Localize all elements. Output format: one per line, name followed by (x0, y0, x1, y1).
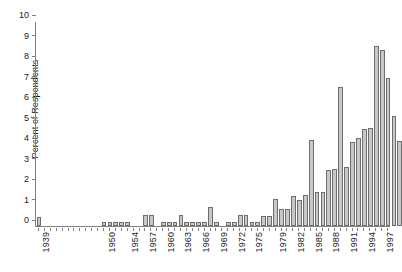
x-axis-tick-mark (68, 228, 69, 231)
x-axis-tick-mark (340, 228, 341, 231)
x-axis-tick-label: 1960 (166, 232, 176, 252)
bar (196, 222, 201, 226)
x-axis-tick-mark (144, 228, 145, 231)
y-axis-tick-label: 8 (24, 50, 29, 62)
x-axis-tick-mark (215, 228, 216, 231)
y-axis-tick-label: 3 (24, 153, 29, 165)
x-axis-tick-mark (38, 228, 39, 231)
bar (214, 222, 219, 226)
y-axis-tick: 5 (1, 112, 36, 124)
x-axis-tick-label: 1975 (254, 232, 264, 252)
x-axis-tick-mark (316, 228, 317, 231)
bar (303, 195, 308, 226)
x-axis-tick-mark (192, 228, 193, 231)
x-axis-tick-mark (298, 228, 299, 231)
x-axis-tick-mark (109, 228, 110, 231)
x-axis-tick-mark (233, 228, 234, 231)
x-axis-tick-label: 1988 (331, 232, 341, 252)
bar (321, 192, 326, 226)
bar (386, 78, 391, 226)
x-axis-tick-mark (210, 228, 211, 231)
plot-frame: 012345678910 (35, 22, 390, 227)
bar (108, 222, 113, 226)
x-axis-tick-mark (387, 228, 388, 231)
x-axis-tick-mark (292, 228, 293, 231)
y-axis-tick: 1 (1, 194, 36, 206)
x-axis-tick-label: 1997 (385, 232, 395, 252)
x-axis-tick-mark (180, 228, 181, 231)
bar (397, 141, 402, 226)
x-axis-tick-mark (50, 228, 51, 231)
x-axis-tick-mark (150, 228, 151, 231)
y-axis-tick-mark (32, 15, 36, 16)
bar (392, 116, 397, 226)
x-axis-tick-mark (85, 228, 86, 231)
bar (285, 209, 290, 226)
x-axis-tick-mark (328, 228, 329, 231)
bar (309, 140, 314, 226)
x-axis-tick-mark (251, 228, 252, 231)
x-axis-tick-mark (162, 228, 163, 231)
x-axis-tick-mark (346, 228, 347, 231)
bar (232, 222, 237, 226)
bar (344, 167, 349, 226)
bar (149, 215, 154, 226)
x-axis-tick-mark (281, 228, 282, 231)
y-axis-tick: 3 (1, 153, 36, 165)
x-axis-tick-mark (127, 228, 128, 231)
bar (37, 217, 42, 226)
y-axis-tick: 0 (1, 214, 36, 226)
x-axis-tick-mark (79, 228, 80, 231)
bar (297, 200, 302, 226)
bar (350, 142, 355, 226)
x-axis-tick-mark (221, 228, 222, 231)
x-axis-tick-mark (375, 228, 376, 231)
bar (279, 209, 284, 226)
bar (326, 170, 331, 226)
bar (184, 222, 189, 226)
x-axis-tick-mark (381, 228, 382, 231)
bar (374, 46, 379, 226)
x-axis-tick-mark (139, 228, 140, 231)
x-axis-tick-mark (286, 228, 287, 231)
x-axis-tick-mark (269, 228, 270, 231)
x-axis-tick-mark (322, 228, 323, 231)
y-axis-tick-label: 6 (24, 91, 29, 103)
x-axis-tick-mark (257, 228, 258, 231)
x-axis-tick-mark (352, 228, 353, 231)
bar (261, 216, 266, 226)
x-axis-tick-label: 1991 (349, 232, 359, 252)
x-axis-tick-mark (156, 228, 157, 231)
bar (161, 222, 166, 226)
x-axis-tick-mark (239, 228, 240, 231)
y-axis-tick: 9 (1, 30, 36, 42)
x-axis-tick-mark (62, 228, 63, 231)
x-axis-tick-label: 1966 (201, 232, 211, 252)
x-axis-tick-mark (275, 228, 276, 231)
x-axis-tick-mark (121, 228, 122, 231)
x-axis-tick-label: 1950 (107, 232, 117, 252)
bar (202, 222, 207, 226)
bar (102, 222, 107, 226)
x-axis-tick-label: 1969 (219, 232, 229, 252)
x-axis-tick-mark (369, 228, 370, 231)
bar (356, 138, 361, 226)
plot-area (36, 22, 390, 226)
bar (332, 169, 337, 226)
y-axis-tick-label: 10 (19, 9, 29, 21)
bar (338, 87, 343, 226)
x-axis-tick-mark (91, 228, 92, 231)
x-axis-tick-label: 1939 (41, 232, 51, 252)
x-axis-tick-mark (245, 228, 246, 231)
x-axis-tick-mark (263, 228, 264, 231)
x-axis-tick-mark (44, 228, 45, 231)
x-axis-tick-mark (103, 228, 104, 231)
bar (113, 222, 118, 226)
y-axis-tick: 2 (1, 173, 36, 185)
bar (244, 215, 249, 226)
x-axis-tick-mark (304, 228, 305, 231)
x-axis-tick-mark (56, 228, 57, 231)
x-axis-tick-mark (97, 228, 98, 231)
x-axis-tick-label: 1954 (130, 232, 140, 252)
